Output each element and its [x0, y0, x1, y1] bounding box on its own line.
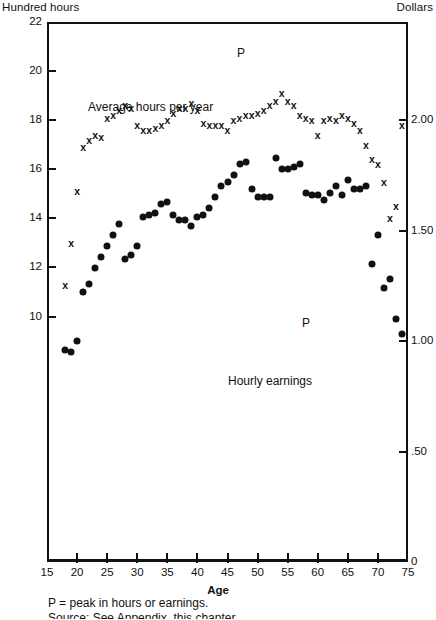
- data-point-hours: x: [297, 110, 303, 121]
- data-point-hours: x: [207, 120, 213, 131]
- data-point-hours: x: [231, 115, 237, 126]
- data-point-earnings: [398, 331, 405, 338]
- data-point-earnings: [338, 192, 345, 199]
- x-tick-label: 30: [122, 566, 152, 578]
- data-point-hours: x: [249, 110, 255, 121]
- x-tick: [287, 553, 289, 563]
- data-point-earnings: [326, 190, 333, 197]
- y-tick-right: [399, 451, 408, 453]
- data-point-hours: x: [303, 112, 309, 123]
- data-point-hours: x: [375, 159, 381, 170]
- data-point-earnings: [230, 172, 237, 179]
- x-tick-label: 60: [303, 566, 333, 578]
- data-point-hours: x: [357, 125, 363, 136]
- data-point-earnings: [380, 285, 387, 292]
- x-tick-label: 70: [363, 566, 393, 578]
- x-tick-label: 25: [92, 566, 122, 578]
- right-axis-title: Dollars: [397, 1, 434, 13]
- data-point-earnings: [68, 349, 75, 356]
- data-point-earnings: [272, 154, 279, 161]
- data-point-hours: x: [369, 154, 375, 165]
- data-point-hours: x: [164, 115, 170, 126]
- data-point-hours: x: [74, 186, 80, 197]
- data-point-earnings: [392, 315, 399, 322]
- y-tick-left: [47, 119, 56, 121]
- data-point-earnings: [134, 243, 141, 250]
- data-point-earnings: [200, 212, 207, 219]
- x-tick: [227, 553, 229, 563]
- y-tick-left: [47, 217, 56, 219]
- y-tick-label-right: .50: [411, 445, 427, 457]
- y-tick-label-right: 1.50: [411, 224, 433, 236]
- data-point-hours: x: [128, 103, 134, 114]
- data-point-hours: x: [237, 112, 243, 123]
- data-point-hours: x: [315, 130, 321, 141]
- data-point-hours: x: [152, 122, 158, 133]
- x-tick-label: 75: [393, 566, 423, 578]
- data-point-hours: x: [116, 105, 122, 116]
- x-tick-label: 45: [213, 566, 243, 578]
- y-tick-label-right: 2.00: [411, 113, 433, 125]
- data-point-hours: x: [399, 120, 405, 131]
- x-tick-label: 55: [273, 566, 303, 578]
- data-point-earnings: [242, 159, 249, 166]
- x-tick: [377, 553, 379, 563]
- data-point-earnings: [374, 231, 381, 238]
- left-axis-title: Hundred hours: [2, 1, 79, 13]
- footnotes: P = peak in hours or earnings. Source: S…: [48, 596, 436, 619]
- data-point-hours: x: [393, 201, 399, 212]
- data-point-earnings: [104, 243, 111, 250]
- peak-annotation-earnings: P: [302, 316, 310, 330]
- data-point-hours: x: [387, 213, 393, 224]
- data-point-earnings: [344, 176, 351, 183]
- data-point-hours: x: [176, 103, 182, 114]
- data-point-hours: x: [219, 120, 225, 131]
- data-point-earnings: [224, 178, 231, 185]
- data-point-hours: x: [62, 279, 68, 290]
- data-point-earnings: [74, 338, 81, 345]
- data-point-earnings: [248, 185, 255, 192]
- data-point-hours: x: [80, 142, 86, 153]
- peak-annotation-hours: P: [237, 46, 245, 60]
- data-point-hours: x: [255, 108, 261, 119]
- data-point-hours: x: [363, 139, 369, 150]
- data-point-hours: x: [339, 110, 345, 121]
- series-label-earnings: Hourly earnings: [228, 374, 312, 388]
- data-point-earnings: [386, 276, 393, 283]
- data-point-hours: x: [146, 125, 152, 136]
- x-tick: [166, 553, 168, 563]
- data-point-hours: x: [279, 88, 285, 99]
- data-point-hours: x: [267, 100, 273, 111]
- x-tick: [347, 553, 349, 563]
- x-tick: [136, 553, 138, 563]
- data-point-earnings: [98, 254, 105, 261]
- data-point-hours: x: [194, 105, 200, 116]
- data-point-hours: x: [261, 105, 267, 116]
- y-tick-left: [47, 168, 56, 170]
- data-point-hours: x: [309, 115, 315, 126]
- data-point-hours: x: [170, 108, 176, 119]
- x-tick: [257, 553, 259, 563]
- x-tick-label: 20: [62, 566, 92, 578]
- data-point-hours: x: [285, 95, 291, 106]
- x-tick: [76, 553, 78, 563]
- y-tick-label-left: 14: [8, 211, 42, 223]
- x-tick-label: 65: [333, 566, 363, 578]
- data-point-earnings: [110, 231, 117, 238]
- y-tick-left: [47, 316, 56, 318]
- footnote-line-2: Source: See Appendix, this chapter.: [48, 611, 436, 619]
- chart-figure: Hundred hours Dollars 101214161820220.50…: [0, 0, 436, 620]
- x-axis-label: Age: [0, 584, 436, 596]
- y-tick-right: [399, 230, 408, 232]
- data-point-hours: x: [201, 117, 207, 128]
- data-point-hours: x: [98, 132, 104, 143]
- data-point-hours: x: [182, 103, 188, 114]
- data-point-earnings: [128, 251, 135, 258]
- data-point-earnings: [116, 220, 123, 227]
- data-point-hours: x: [158, 120, 164, 131]
- data-point-hours: x: [213, 120, 219, 131]
- x-tick-label: 50: [243, 566, 273, 578]
- data-point-hours: x: [92, 130, 98, 141]
- x-tick: [196, 553, 198, 563]
- data-point-earnings: [86, 280, 93, 287]
